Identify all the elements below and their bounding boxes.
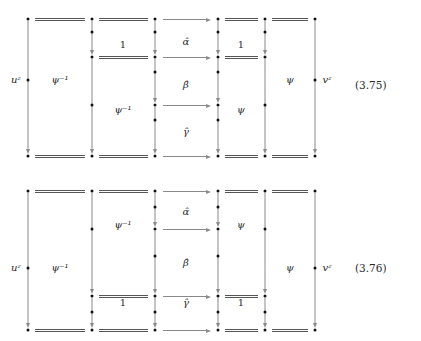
arrow-head-down	[26, 149, 30, 154]
diagram-node	[91, 228, 94, 231]
arrow-head-down	[216, 149, 220, 154]
diagram-cell-label: ψ⁻¹	[114, 220, 131, 230]
arrow-head-down	[90, 50, 94, 55]
arrow-head-right	[206, 56, 211, 60]
identity-double-line	[272, 155, 308, 158]
diagram-node	[91, 155, 94, 158]
diagram-node	[91, 190, 94, 193]
arrow-head-down	[216, 50, 220, 55]
figure-page: ψ⁻¹1ψ⁻¹α̂β̂γ̂1ψψuᶻvᶻ (3.75) ψ⁻¹ψ⁻¹1α̂β̂γ…	[0, 0, 421, 341]
arrow-head-right	[206, 155, 211, 159]
diagram-node	[154, 155, 157, 158]
diagram-cell-label: ψ	[237, 105, 245, 115]
identity-double-line	[99, 56, 148, 59]
diagram-cell-label: β̂	[183, 80, 189, 90]
identity-double-line	[272, 329, 308, 332]
arrow-head-down	[216, 222, 220, 227]
arrow-shaft-vertical	[218, 193, 219, 224]
diagram-node	[91, 311, 94, 314]
arrow-head-down	[153, 149, 157, 154]
diagram-node	[154, 228, 157, 231]
diagram-node	[154, 190, 157, 193]
diagram-node	[264, 18, 267, 21]
diagram-node	[27, 18, 30, 21]
identity-double-line	[35, 329, 85, 332]
diagram-cell-label: 1	[120, 40, 126, 50]
diagram-node	[154, 104, 157, 107]
diagram-cell-label: α̂	[183, 37, 190, 47]
arrow-shaft-vertical	[155, 21, 156, 52]
diagram-canvas-3-76: ψ⁻¹ψ⁻¹1α̂β̂γ̂ψ1ψuᶻvᶻ	[0, 170, 421, 341]
arrow-head-down	[216, 289, 220, 294]
diagram-node	[91, 104, 94, 107]
diagram-node	[314, 155, 317, 158]
outer-label-right: vᶻ	[323, 263, 332, 273]
arrow-head-down	[90, 149, 94, 154]
diagram-node	[314, 79, 317, 82]
identity-double-line	[99, 190, 148, 193]
arrow-head-right	[206, 18, 211, 22]
arrow-shaft-horizontal	[163, 156, 206, 157]
arrow-head-down	[90, 323, 94, 328]
arrow-shaft-horizontal	[163, 330, 206, 331]
arrow-head-down	[313, 323, 317, 328]
diagram-node	[154, 311, 157, 314]
diagram-cell-label: α̂	[183, 207, 190, 217]
arrow-head-down	[216, 323, 220, 328]
identity-double-line	[35, 190, 85, 193]
arrow-shaft-vertical	[155, 59, 156, 100]
identity-double-line	[99, 329, 148, 332]
diagram-cell-label: ψ⁻¹	[51, 263, 68, 273]
arrow-head-down	[216, 98, 220, 103]
diagram-node	[264, 56, 267, 59]
arrow-head-down	[313, 149, 317, 154]
arrow-head-down	[263, 149, 267, 154]
diagram-cell-label: β̂	[183, 258, 189, 268]
diagram-node	[154, 18, 157, 21]
identity-double-line	[99, 155, 148, 158]
identity-double-line	[99, 18, 148, 21]
arrow-shaft-vertical	[265, 193, 266, 291]
diagram-cell-label: ψ	[286, 263, 294, 273]
diagram-node	[264, 311, 267, 314]
identity-double-line	[225, 56, 258, 59]
arrow-shaft-vertical	[28, 193, 29, 325]
diagram-node	[217, 119, 220, 122]
arrow-head-down	[153, 323, 157, 328]
diagram-node	[217, 228, 220, 231]
diagram-cell-label: 1	[120, 298, 126, 308]
diagram-node	[91, 56, 94, 59]
diagram-node	[217, 31, 220, 34]
arrow-shaft-vertical	[155, 193, 156, 224]
diagram-node	[314, 329, 317, 332]
diagram-node	[27, 329, 30, 332]
arrow-shaft-horizontal	[163, 57, 206, 58]
arrow-head-down	[263, 289, 267, 294]
diagram-node	[217, 190, 220, 193]
diagram-node	[154, 119, 157, 122]
arrow-head-right	[206, 104, 211, 108]
diagram-node	[217, 56, 220, 59]
diagram-node	[217, 295, 220, 298]
arrow-head-right	[206, 295, 211, 299]
identity-double-line	[272, 18, 308, 21]
arrow-shaft-vertical	[315, 21, 316, 151]
diagram-cell-label: ψ⁻¹	[51, 75, 68, 85]
identity-double-line	[225, 155, 258, 158]
arrow-head-right	[206, 329, 211, 333]
arrow-head-right	[206, 190, 211, 194]
diagram-cell-label: ψ	[286, 75, 294, 85]
arrow-shaft-horizontal	[163, 19, 206, 20]
diagram-node	[217, 311, 220, 314]
diagram-node	[154, 255, 157, 258]
arrow-head-down	[153, 289, 157, 294]
diagram-node	[27, 190, 30, 193]
arrow-shaft-vertical	[218, 107, 219, 151]
diagram-node	[264, 228, 267, 231]
equation-number-3-75: (3.75)	[355, 79, 387, 91]
outer-label-right: vᶻ	[323, 75, 332, 85]
arrow-shaft-vertical	[28, 21, 29, 151]
arrow-head-down	[153, 222, 157, 227]
arrow-head-down	[263, 50, 267, 55]
diagram-node	[264, 104, 267, 107]
